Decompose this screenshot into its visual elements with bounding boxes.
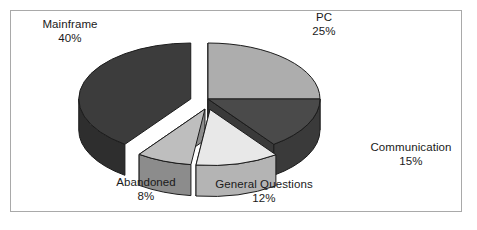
slice-label-communication-percent: 15% — [352, 154, 470, 168]
slice-label-mainframe: Mainframe 40% — [18, 17, 122, 45]
slice-label-abandoned-name: Abandoned — [97, 175, 195, 189]
slice-label-pc: PC 25% — [287, 10, 361, 38]
slice-label-general-questions-percent: 12% — [197, 191, 331, 205]
slice-label-general-questions-name: General Questions — [197, 177, 331, 191]
slice-label-communication-name: Communication — [352, 140, 470, 154]
slice-label-communication: Communication 15% — [352, 140, 470, 168]
chart-page: Mainframe 40% PC 25% Communication 15% A… — [0, 0, 477, 230]
slice-label-abandoned: Abandoned 8% — [97, 175, 195, 203]
slice-label-mainframe-percent: 40% — [18, 31, 122, 45]
slice-label-pc-name: PC — [287, 10, 361, 24]
slice-label-abandoned-percent: 8% — [97, 189, 195, 203]
slice-label-general-questions: General Questions 12% — [197, 177, 331, 205]
slice-label-mainframe-name: Mainframe — [18, 17, 122, 31]
slice-label-pc-percent: 25% — [287, 24, 361, 38]
